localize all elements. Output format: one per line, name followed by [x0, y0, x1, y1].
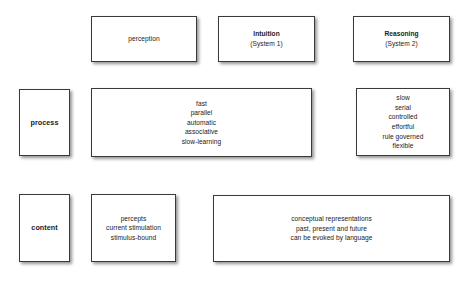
content-item: stimulus-bound	[111, 233, 156, 243]
process-item: associative	[185, 127, 218, 137]
process-item: serial	[395, 103, 411, 113]
header-intuition-subtitle: (System 1)	[250, 39, 282, 49]
process-item: slow	[396, 93, 409, 103]
content-item: past, present and future	[296, 224, 367, 234]
process-item: fast	[196, 99, 207, 109]
header-intuition-title: Intuition	[253, 29, 279, 39]
process-item: slow-learning	[182, 137, 222, 147]
process-item: parallel	[191, 108, 213, 118]
content-box-perception: percepts current stimulation stimulus-bo…	[91, 194, 176, 262]
process-item: rule governed	[383, 132, 424, 142]
row-label-process: process	[19, 89, 70, 156]
content-item: conceptual representations	[291, 214, 371, 224]
header-reasoning-subtitle: (System 2)	[385, 39, 417, 49]
process-item: effortful	[392, 122, 414, 132]
row-label-content-text: content	[31, 223, 57, 233]
header-reasoning-title: Reasoning	[384, 29, 418, 39]
row-label-content: content	[19, 194, 70, 262]
content-box-intuition-reasoning: conceptual representations past, present…	[213, 195, 450, 262]
process-item: automatic	[187, 118, 216, 128]
diagram-canvas: perception Intuition (System 1) Reasonin…	[0, 0, 464, 282]
content-item: current stimulation	[106, 223, 161, 233]
process-box-reasoning: slow serial controlled effortful rule go…	[356, 88, 450, 156]
header-box-reasoning: Reasoning (System 2)	[353, 16, 450, 62]
header-perception-title: perception	[128, 34, 159, 44]
row-label-process-text: process	[31, 118, 59, 128]
process-item: controlled	[388, 112, 417, 122]
process-item: flexible	[393, 141, 414, 151]
content-item: percepts	[121, 214, 147, 224]
process-box-perception-intuition: fast parallel automatic associative slow…	[91, 88, 312, 157]
content-item: can be evoked by language	[291, 233, 373, 243]
header-box-perception: perception	[91, 16, 197, 62]
header-box-intuition: Intuition (System 1)	[218, 16, 315, 62]
